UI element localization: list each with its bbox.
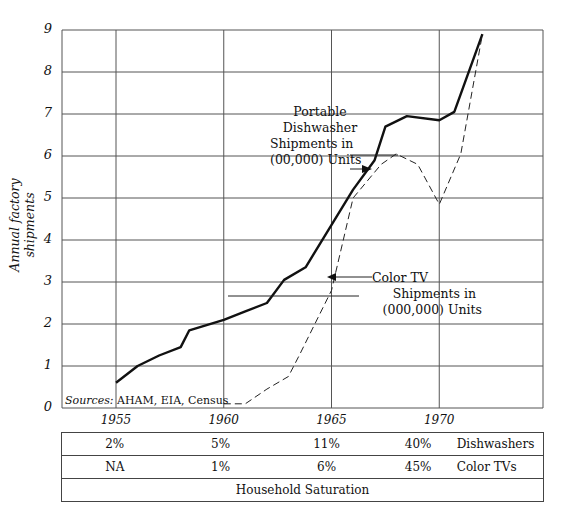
table-footer: Household Saturation bbox=[62, 479, 544, 502]
y-tick-6: 6 bbox=[32, 147, 52, 162]
y-tick-8: 8 bbox=[32, 63, 52, 78]
y-tick-3: 3 bbox=[32, 273, 52, 288]
x-tick-1955: 1955 bbox=[86, 413, 146, 427]
x-tick-1965: 1965 bbox=[302, 413, 362, 427]
x-tick-1970: 1970 bbox=[409, 413, 469, 427]
y-tick-7: 7 bbox=[32, 105, 52, 120]
table-row-dishwashers: 2% 5% 11% 40% Dishwashers bbox=[62, 433, 544, 456]
x-tick-1960: 1960 bbox=[194, 413, 254, 427]
y-tick-2: 2 bbox=[32, 315, 52, 330]
y-tick-4: 4 bbox=[32, 231, 52, 246]
color-tv-annotation: Color TV Shipments in (000,000) Units bbox=[372, 270, 482, 318]
y-tick-5: 5 bbox=[32, 189, 52, 204]
y-tick-0: 0 bbox=[32, 399, 52, 414]
sources-note: Sources: AHAM, EIA, Census bbox=[65, 394, 228, 407]
y-tick-1: 1 bbox=[32, 357, 52, 372]
grid bbox=[62, 30, 543, 408]
color-tv-line bbox=[224, 34, 483, 404]
dishwasher-annotation: Portable Dishwasher Shipments in (00,000… bbox=[270, 104, 370, 168]
y-tick-9: 9 bbox=[32, 21, 52, 36]
dishwasher-line bbox=[116, 34, 482, 383]
chart-plot bbox=[0, 0, 571, 430]
table-row-color-tvs: NA 1% 6% 45% Color TVs bbox=[62, 456, 544, 479]
household-saturation-table: 2% 5% 11% 40% Dishwashers NA 1% 6% 45% C… bbox=[61, 432, 544, 502]
